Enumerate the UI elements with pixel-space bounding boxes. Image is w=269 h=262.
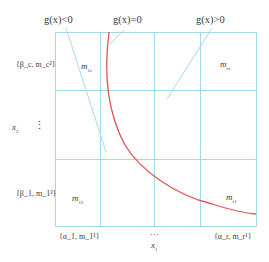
label-g-zero: g(x)=0: [113, 15, 142, 26]
y-tick-bottom: {β_1, m_1²}: [16, 190, 56, 198]
cell-label-bottom-right: mr1: [226, 193, 237, 204]
diagram-canvas: [0, 0, 269, 262]
x-axis-ellipsis: ···: [150, 230, 159, 239]
label-g-negative: g(x)<0: [44, 15, 73, 26]
y-axis-ellipsis: ⋮: [34, 120, 45, 131]
x-tick-right: {α_r, m_r¹}: [214, 233, 252, 241]
label-g-positive: g(x)>0: [196, 15, 225, 26]
cell-label-top-left: m1c: [81, 62, 92, 73]
y-tick-top: {β_c, m_c²}: [16, 61, 55, 69]
boundary-curve: [107, 32, 256, 214]
cell-label-top-right: mrc: [220, 60, 230, 71]
y-axis-label: x2: [12, 123, 19, 134]
x-axis-label: x1: [151, 241, 158, 252]
x-tick-left: {α_1, m_1¹}: [59, 233, 100, 241]
leader-positive: [167, 28, 212, 99]
cell-label-bottom-left: m11: [72, 194, 83, 205]
